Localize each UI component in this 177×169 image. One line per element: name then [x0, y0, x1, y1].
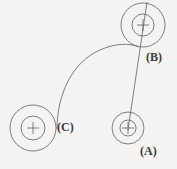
node-c-center-cross-icon [27, 122, 39, 134]
node-c [10, 105, 56, 151]
technical-drawing-figure: (A) (B) (C) [0, 0, 177, 169]
node-b-center-cross-icon [137, 19, 149, 31]
node-a [112, 112, 144, 144]
connector-line-a-b [128, 2, 147, 130]
node-b [121, 3, 165, 47]
connector-curve-c-b [57, 44, 139, 129]
node-a-label: (A) [140, 145, 157, 157]
node-c-label: (C) [57, 121, 74, 133]
node-a-center-cross-icon [122, 122, 134, 134]
node-b-label: (B) [146, 51, 162, 63]
